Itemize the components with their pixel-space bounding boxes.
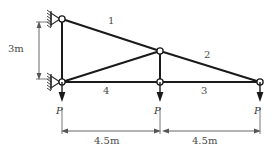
member-label-2: 2 <box>204 50 210 60</box>
load-arrow-right <box>257 82 264 102</box>
bottom-left-support <box>47 73 60 91</box>
height-dimension-group <box>36 21 52 80</box>
joint-top-left <box>59 16 65 22</box>
load-label-left: P <box>56 106 63 116</box>
span-right-arrow-start <box>162 129 169 134</box>
diagonal-member-line <box>62 51 160 82</box>
top-left-support <box>47 10 60 28</box>
figure-caption <box>0 153 279 162</box>
height-dimension-label: 3m <box>8 44 24 54</box>
load-arrow-mid <box>157 82 164 102</box>
truss-diagram: 1 2 3 4 P P P 3m 4.5m 4.5m <box>0 0 279 162</box>
member-label-3: 3 <box>201 86 207 96</box>
truss-svg-canvas <box>0 0 279 162</box>
member-label-1: 1 <box>108 16 114 26</box>
load-label-mid: P <box>154 106 161 116</box>
span-right-dimension-label: 4.5m <box>192 136 217 146</box>
span-dimension-group <box>61 108 261 134</box>
load-arrow-left <box>59 82 66 102</box>
load-label-right: P <box>254 106 261 116</box>
member-label-4: 4 <box>103 86 109 96</box>
span-left-dimension-label: 4.5m <box>94 136 119 146</box>
joint-apex <box>157 48 163 54</box>
